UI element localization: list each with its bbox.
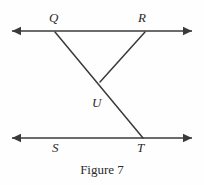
vertex-label-t: T bbox=[137, 141, 144, 154]
segment-r-to-u bbox=[100, 32, 145, 82]
vertex-label-q: Q bbox=[49, 11, 58, 24]
top-line-right-arrowhead bbox=[183, 27, 192, 35]
bottom-line-left-arrowhead bbox=[12, 134, 21, 142]
bottom-line-group bbox=[12, 134, 192, 142]
geometry-diagram bbox=[0, 0, 204, 185]
vertex-label-s: S bbox=[52, 141, 59, 154]
bottom-line-right-arrowhead bbox=[183, 134, 192, 142]
vertex-label-u: U bbox=[92, 96, 101, 109]
figure-caption: Figure 7 bbox=[0, 162, 204, 177]
vertex-label-r: R bbox=[138, 11, 146, 24]
top-line-left-arrowhead bbox=[12, 27, 21, 35]
figure-container: Q R U S T Figure 7 bbox=[0, 0, 204, 185]
top-line-group bbox=[12, 27, 192, 35]
